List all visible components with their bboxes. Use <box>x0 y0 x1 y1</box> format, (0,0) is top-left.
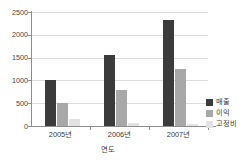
legend-item[interactable]: 고정비 <box>206 120 237 128</box>
bar-chart: 05001000150020002500 2005년2006년2007년 연도 … <box>0 0 249 161</box>
bar <box>57 103 68 126</box>
legend: 매출이익고정비 <box>206 98 237 128</box>
bar <box>187 124 198 126</box>
legend-item-label: 이익 <box>216 109 230 117</box>
legend-item-label: 매출 <box>216 98 230 106</box>
y-tick-label: 1000 <box>12 77 28 84</box>
bar-group <box>45 12 81 126</box>
top-edge-artifact <box>0 0 249 4</box>
y-tick-label: 2000 <box>12 31 28 38</box>
y-tick-label: 1500 <box>12 54 28 61</box>
y-axis-line <box>31 11 32 127</box>
legend-swatch-icon <box>206 110 213 117</box>
legend-item-label: 고정비 <box>216 120 237 128</box>
y-tick-label: 500 <box>16 100 28 107</box>
bar <box>116 90 127 126</box>
legend-swatch-icon <box>206 121 213 128</box>
bar-group <box>163 12 199 126</box>
bar <box>175 69 186 126</box>
x-tick-label: 2005년 <box>31 130 90 139</box>
legend-swatch-icon <box>206 99 213 106</box>
bar-group <box>104 12 140 126</box>
legend-item[interactable]: 매출 <box>206 98 237 106</box>
bar <box>104 55 115 126</box>
y-tick-label: 2500 <box>12 9 28 16</box>
x-tick-label: 2006년 <box>90 130 149 139</box>
x-axis-title: 연도 <box>0 145 216 154</box>
bar <box>163 20 174 126</box>
x-axis-line <box>31 126 216 127</box>
bar <box>45 80 56 126</box>
bar <box>69 119 80 126</box>
x-tick-label: 2007년 <box>149 130 208 139</box>
y-axis-ticks: 05001000150020002500 <box>0 0 28 161</box>
legend-item[interactable]: 이익 <box>206 109 237 117</box>
bar <box>128 123 139 126</box>
